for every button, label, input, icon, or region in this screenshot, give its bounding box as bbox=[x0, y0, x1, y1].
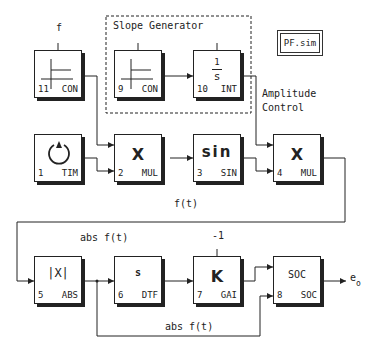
output-label: eo bbox=[350, 272, 361, 283]
block-type: CON bbox=[62, 84, 78, 94]
abs-ft-top-label: abs f(t) bbox=[80, 232, 128, 243]
block-11-constant[interactable]: 11 CON bbox=[34, 50, 82, 98]
block-number: 10 bbox=[197, 84, 208, 94]
amplitude-control-label-1: Amplitude bbox=[262, 88, 316, 99]
amplitude-control-label-2: Control bbox=[262, 102, 304, 113]
file-label-box[interactable]: PF.sim bbox=[277, 30, 323, 56]
fraction-denominator: s bbox=[214, 70, 221, 83]
block-number: 5 bbox=[38, 290, 43, 300]
soc-symbol: SOC bbox=[274, 269, 320, 280]
block-number: 2 bbox=[118, 168, 123, 178]
block-number: 9 bbox=[118, 84, 123, 94]
block-5-absolute[interactable]: |X| 5 ABS bbox=[34, 256, 82, 304]
block-10-integrator[interactable]: 1 s 10 INT bbox=[193, 50, 241, 98]
absolute-symbol: |X| bbox=[35, 266, 81, 280]
block-number: 6 bbox=[118, 290, 123, 300]
output-label-sub: o bbox=[356, 279, 361, 288]
block-9-constant[interactable]: 9 CON bbox=[114, 50, 162, 98]
block-number: 8 bbox=[277, 290, 282, 300]
block-number: 3 bbox=[197, 168, 202, 178]
block-type: MUL bbox=[301, 168, 317, 178]
block-type: GAI bbox=[221, 290, 237, 300]
block-number: 1 bbox=[38, 168, 43, 178]
ft-label: f(t) bbox=[174, 198, 198, 209]
f-input-label: f bbox=[56, 22, 62, 33]
fraction-numerator: 1 bbox=[214, 57, 219, 67]
sine-symbol: sin bbox=[194, 143, 240, 161]
block-number: 7 bbox=[197, 290, 202, 300]
block-type: CON bbox=[142, 84, 158, 94]
multiply-symbol: X bbox=[115, 145, 161, 164]
junction-dot bbox=[96, 280, 99, 283]
block-4-multiply[interactable]: X 4 MUL bbox=[273, 134, 321, 182]
abs-ft-bottom-label: abs f(t) bbox=[165, 321, 213, 332]
block-1-time[interactable]: 1 TIM bbox=[34, 134, 82, 182]
block-type: SIN bbox=[221, 168, 237, 178]
block-type: INT bbox=[221, 84, 237, 94]
file-label-text: PF.sim bbox=[280, 33, 320, 53]
multiply-symbol: X bbox=[274, 145, 320, 164]
block-type: DTF bbox=[142, 290, 158, 300]
block-type: TIM bbox=[62, 168, 78, 178]
derivative-symbol: s bbox=[115, 267, 161, 278]
slope-generator-title: Slope Generator bbox=[113, 20, 203, 31]
block-type: MUL bbox=[142, 168, 158, 178]
block-3-sine[interactable]: sin 3 SIN bbox=[193, 134, 241, 182]
block-8-soc[interactable]: SOC 8 SOC bbox=[273, 256, 321, 304]
block-number: 11 bbox=[38, 84, 49, 94]
gain-param-label: -1 bbox=[212, 230, 224, 241]
block-type: SOC bbox=[301, 290, 317, 300]
block-number: 4 bbox=[277, 168, 282, 178]
block-7-gain[interactable]: K 7 GAI bbox=[193, 256, 241, 304]
block-6-derivative[interactable]: s 6 DTF bbox=[114, 256, 162, 304]
integrator-symbol: 1 s bbox=[194, 57, 240, 83]
block-type: ABS bbox=[62, 290, 78, 300]
block-2-multiply[interactable]: X 2 MUL bbox=[114, 134, 162, 182]
gain-symbol: K bbox=[194, 267, 240, 286]
